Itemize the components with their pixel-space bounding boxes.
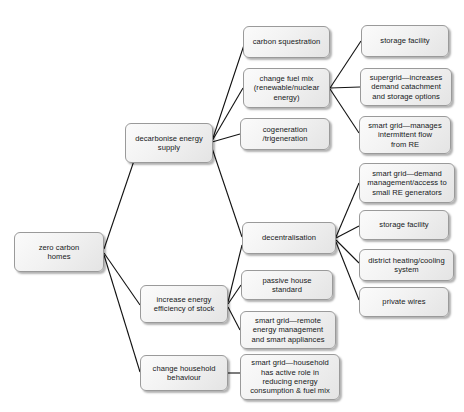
edge-decarbonise-fuelmix: [212, 88, 243, 141]
node-supergrid[interactable]: supergrid—increases demand catachment an…: [360, 68, 452, 106]
node-label: cogeneration /trigeneration: [244, 125, 326, 144]
node-cogeneration-trigeneration[interactable]: cogeneration /trigeneration: [240, 118, 330, 150]
edge-decentralisation-demand: [336, 183, 359, 237]
node-change-fuel-mix[interactable]: change fuel mix (renewable/nuclear energ…: [243, 68, 330, 108]
node-label: smart grid—manages intermittent flow fro…: [363, 121, 447, 149]
node-storage-facility-top[interactable]: storage facility: [361, 25, 449, 57]
node-label: storage facility: [363, 220, 445, 229]
edge-decentralisation-private: [336, 242, 359, 300]
node-increase-energy-efficiency[interactable]: increase energy efficiency of stock: [140, 285, 228, 323]
diagram-canvas: zero carbon homes decarbonise energy sup…: [0, 0, 464, 412]
node-label: change fuel mix (renewable/nuclear energ…: [247, 74, 326, 102]
edge-decentralisation-storage: [336, 226, 359, 238]
edge-efficiency-smartgrid-remote: [228, 307, 240, 330]
node-private-wires[interactable]: private wires: [359, 287, 449, 317]
node-label: supergrid—increases demand catachment an…: [364, 73, 448, 101]
edge-fuelmix-supergrid: [330, 87, 360, 88]
node-label: increase energy efficiency of stock: [144, 295, 224, 314]
node-label: carbon squestration: [247, 37, 326, 46]
node-storage-facility-mid[interactable]: storage facility: [359, 210, 449, 240]
node-district-heating-cooling[interactable]: district heating/cooling system: [359, 249, 454, 281]
edge-decarbonise-cogeneration: [212, 134, 240, 142]
node-zero-carbon-homes[interactable]: zero carbon homes: [14, 232, 104, 272]
node-label: private wires: [363, 297, 445, 306]
node-passive-house-standard[interactable]: passive house standard: [241, 270, 333, 300]
edge-root-efficiency: [104, 253, 140, 305]
node-label: decarbonise energy supply: [129, 134, 209, 153]
node-decentralisation[interactable]: decentralisation: [242, 222, 336, 254]
node-label: smart grid—household has active role in …: [244, 358, 336, 396]
node-smart-grid-intermittent-flow[interactable]: smart grid—manages intermittent flow fro…: [359, 116, 451, 154]
node-label: storage facility: [365, 36, 445, 45]
edge-layer: [0, 0, 464, 412]
node-label: district heating/cooling system: [363, 256, 450, 275]
node-smart-grid-household-role[interactable]: smart grid—household has active role in …: [240, 354, 340, 400]
node-change-household-behaviour[interactable]: change household behaviour: [140, 355, 228, 391]
node-label: passive house standard: [245, 276, 329, 295]
node-label: smart grid—remote energy management and …: [244, 316, 332, 344]
edge-fuelmix-storage: [330, 41, 361, 88]
edge-fuelmix-intermittent: [330, 89, 359, 133]
edge-efficiency-passive: [228, 285, 241, 304]
edge-decarbonise-decentralisation: [212, 148, 242, 237]
node-label: zero carbon homes: [18, 243, 100, 262]
node-decarbonise-energy-supply[interactable]: decarbonise energy supply: [125, 123, 213, 163]
node-carbon-sequestration[interactable]: carbon squestration: [243, 26, 330, 58]
edge-decentralisation-district: [336, 240, 359, 263]
node-smart-grid-demand-management[interactable]: smart grid—demand management/access to s…: [359, 163, 455, 203]
node-label: smart grid—demand management/access to s…: [363, 169, 451, 197]
node-label: change household behaviour: [144, 364, 224, 383]
node-smart-grid-remote-management[interactable]: smart grid—remote energy management and …: [240, 311, 336, 349]
node-label: decentralisation: [246, 233, 332, 242]
edge-root-behaviour: [104, 255, 140, 372]
edge-efficiency-decentralisation: [228, 245, 242, 302]
